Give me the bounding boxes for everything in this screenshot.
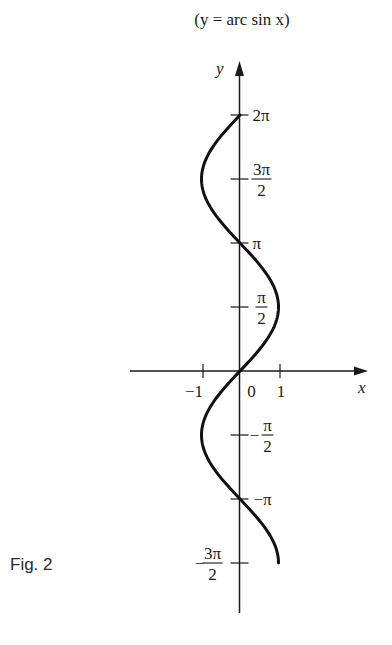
x-tick-label: −1: [185, 382, 203, 401]
x-tick-label: 1: [277, 382, 286, 401]
y-tick-denominator: 2: [208, 565, 217, 584]
x-axis-label: x: [357, 378, 366, 397]
axes: x y: [130, 59, 368, 613]
y-tick-numerator: 3π: [204, 544, 222, 563]
y-tick-label: 2π: [253, 106, 271, 125]
y-tick-denominator: 2: [257, 309, 266, 328]
y-tick-numerator: 3π: [253, 160, 271, 179]
y-axis-label: y: [214, 59, 224, 78]
x-axis-arrow-icon: [354, 367, 368, 376]
chart-title: (y = arc sin x): [194, 10, 290, 29]
y-tick-denominator: 2: [263, 437, 272, 456]
figure-caption: Fig. 2: [10, 555, 53, 574]
y-tick-numerator: π: [257, 288, 266, 307]
y-tick-denominator: 2: [257, 181, 266, 200]
y-tick-numerator: π: [263, 416, 272, 435]
y-tick-label: −π: [254, 490, 273, 509]
y-tick-sign: −: [250, 426, 260, 445]
x-tick-label: 0: [247, 382, 256, 401]
y-axis-arrow-icon: [235, 61, 244, 76]
arcsin-figure: (y = arc sin x) Fig. 2 x y −1012π3π2ππ2−…: [0, 0, 392, 645]
y-tick-label: π: [253, 234, 262, 253]
